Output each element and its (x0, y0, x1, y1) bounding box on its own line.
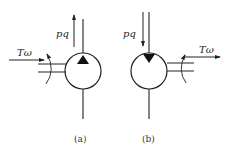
torque-label-b: Tω (199, 44, 214, 55)
torque-label-a: Tω (17, 47, 32, 58)
motor-symbol-b: pq Tω (b) (123, 12, 220, 144)
rotation-arrow-icon (181, 55, 186, 83)
rotation-arrow-icon (46, 54, 51, 84)
flow-label-b: pq (123, 28, 136, 39)
diagram-canvas: pq Tω (a) pq Tω (b) (0, 0, 229, 154)
caption-a: (a) (74, 134, 86, 144)
caption-b: (b) (142, 134, 155, 144)
triangle-up-icon (77, 55, 89, 64)
pump-symbol-a: pq Tω (a) (9, 15, 101, 144)
flow-label-a: pq (56, 28, 69, 39)
triangle-down-icon (143, 54, 155, 63)
